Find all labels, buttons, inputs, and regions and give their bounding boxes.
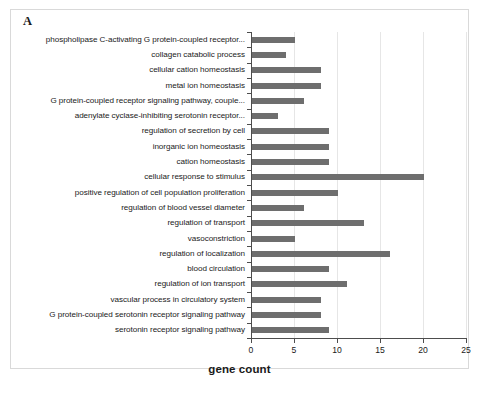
bar <box>252 144 329 150</box>
category-label: cellular cation homeostasis <box>149 65 245 75</box>
category-label: serotonin receptor signaling pathway <box>115 325 245 335</box>
bar <box>252 266 329 272</box>
x-axis-tick <box>251 339 252 343</box>
x-axis-tick-label: 25 <box>461 345 471 355</box>
x-axis-line <box>251 338 467 339</box>
bar <box>252 37 295 43</box>
x-axis-tick <box>380 339 381 343</box>
x-axis-tick-label: 0 <box>249 345 254 355</box>
bar <box>252 98 304 104</box>
x-axis-tick-label: 15 <box>375 345 385 355</box>
x-axis-tick <box>423 339 424 343</box>
category-label: vasoconstriction <box>188 234 245 244</box>
x-axis-tick-label: 10 <box>332 345 342 355</box>
category-label: adenylate cyclase-inhibiting serotonin r… <box>75 111 245 121</box>
category-label: regulation of localization <box>159 249 245 259</box>
category-label: collagen catabolic process <box>151 50 245 60</box>
category-label: regulation of transport <box>167 218 245 228</box>
category-label: regulation of ion transport <box>155 279 245 289</box>
bar <box>252 312 321 318</box>
bar <box>252 236 295 242</box>
gridline <box>294 32 295 338</box>
bar-chart-plot: phospholipase C-activating G protein-cou… <box>11 10 470 370</box>
category-label: cation homeostasis <box>177 157 245 167</box>
x-axis-tick <box>466 339 467 343</box>
category-label: G protein-coupled receptor signaling pat… <box>50 96 245 106</box>
category-label: vascular process in circulatory system <box>111 295 245 305</box>
gridline <box>423 32 424 338</box>
bar <box>252 251 390 257</box>
x-axis-title: gene count <box>11 363 468 375</box>
bar <box>252 190 338 196</box>
bar <box>252 205 304 211</box>
bar <box>252 159 329 165</box>
category-label: cellular response to stimulus <box>144 172 245 182</box>
bar <box>252 220 364 226</box>
category-label: metal ion homeostasis <box>166 81 245 91</box>
bar <box>252 128 329 134</box>
gridline <box>380 32 381 338</box>
category-label: regulation of secretion by cell <box>142 126 245 136</box>
x-axis-tick <box>294 339 295 343</box>
x-axis-tick <box>337 339 338 343</box>
category-label: blood circulation <box>187 264 245 274</box>
category-label: G protein-coupled serotonin receptor sig… <box>49 310 245 320</box>
gridline <box>466 32 467 338</box>
category-label: inorganic ion homeostasis <box>153 142 245 152</box>
gridline <box>337 32 338 338</box>
x-axis-tick-label: 5 <box>292 345 297 355</box>
bar <box>252 67 321 73</box>
x-axis-tick-label: 20 <box>418 345 428 355</box>
bar <box>252 327 329 333</box>
bar <box>252 52 286 58</box>
bar <box>252 281 347 287</box>
y-axis-line <box>251 32 252 339</box>
category-label: positive regulation of cell population p… <box>75 188 245 198</box>
bar <box>252 113 278 119</box>
bar <box>252 297 321 303</box>
bar <box>252 174 424 180</box>
bar <box>252 83 321 89</box>
category-label: regulation of blood vessel diameter <box>121 203 245 213</box>
category-label: phospholipase C-activating G protein-cou… <box>46 35 245 45</box>
figure-panel: A phospholipase C-activating G protein-c… <box>10 9 469 369</box>
